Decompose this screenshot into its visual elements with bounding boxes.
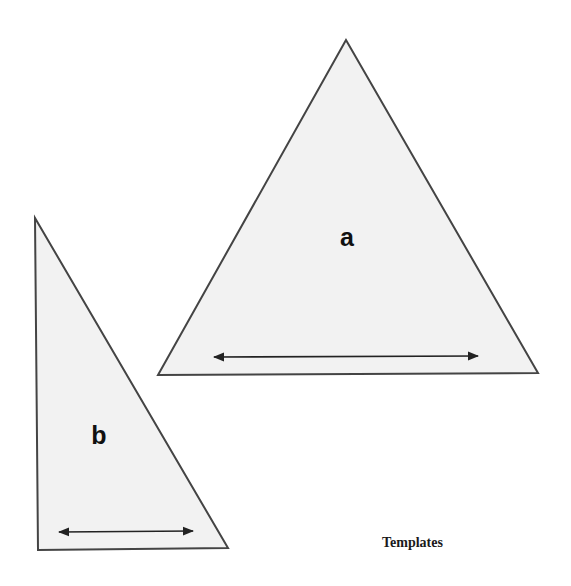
triangle-b-shape xyxy=(35,218,228,550)
triangle-a: a xyxy=(158,40,538,375)
templates-diagram: a b xyxy=(0,0,571,586)
figure-caption: Templates xyxy=(382,535,443,551)
triangle-b: b xyxy=(35,218,228,550)
triangle-a-width-arrow xyxy=(214,356,478,357)
triangle-b-width-arrow xyxy=(59,531,193,532)
triangle-a-shape xyxy=(158,40,538,375)
triangle-b-label: b xyxy=(91,421,106,449)
triangle-a-label: a xyxy=(340,223,355,251)
